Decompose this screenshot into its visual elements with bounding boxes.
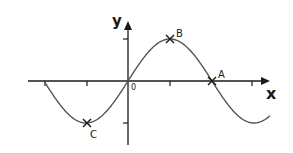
point-a-label: A	[218, 69, 225, 80]
point-c-label: C	[90, 129, 97, 140]
sine-graph: y x 0 B A C	[0, 0, 293, 153]
origin-label: 0	[131, 83, 136, 92]
y-axis-arrow-icon	[124, 21, 132, 30]
x-axis-ticks	[45, 81, 252, 86]
x-axis-label: x	[266, 84, 277, 103]
point-b-label: B	[176, 28, 183, 39]
y-axis-label: y	[112, 12, 122, 30]
